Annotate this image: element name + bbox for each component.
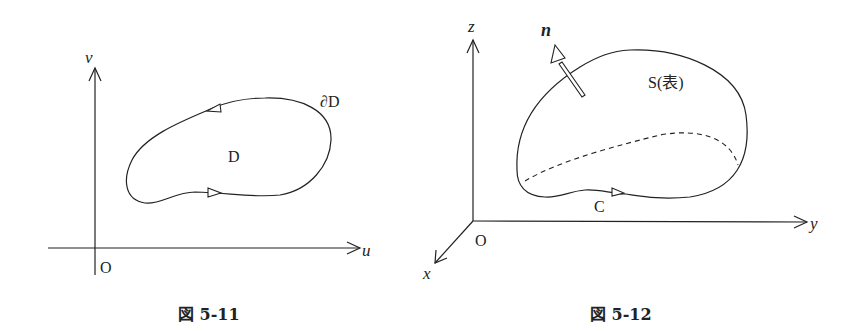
y-axis-label: y [808, 214, 818, 233]
figure-caption: 図 5-11 [178, 305, 240, 324]
curve-orientation-arrow-icon [612, 188, 624, 196]
x-axis [435, 221, 473, 263]
orientation-arrow-top-icon [207, 104, 221, 112]
x-axis-label: x [422, 264, 431, 283]
diagram-canvas: v u O D ∂D 図 5-11 z y x O n S(表) C [0, 0, 865, 331]
v-axis-label: v [85, 48, 93, 67]
surface-outline [517, 50, 747, 198]
y-axis [473, 221, 807, 222]
figure-caption: 図 5-12 [590, 305, 652, 324]
figure-5-11: v u O D ∂D 図 5-11 [48, 48, 371, 324]
boundary-label: ∂D [320, 93, 339, 110]
orientation-arrow-bottom-icon [208, 188, 221, 197]
figure-5-12: z y x O n S(表) C 図 5-12 [422, 17, 818, 324]
curve-label: C [594, 198, 605, 215]
surface-label: S(表) [648, 74, 684, 92]
origin-label: O [475, 232, 487, 249]
region-label: D [228, 148, 240, 165]
u-axis-label: u [362, 241, 371, 260]
origin-label: O [100, 259, 112, 276]
z-axis-label: z [467, 17, 475, 36]
normal-vector-icon [551, 45, 585, 97]
normal-label: n [541, 20, 551, 40]
surface-hidden-edge [525, 133, 738, 181]
